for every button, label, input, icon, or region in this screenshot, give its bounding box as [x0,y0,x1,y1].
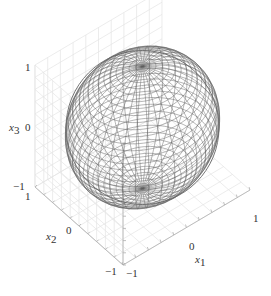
x1-axis-label: x1 [194,253,205,268]
x3-axis-label: x3 [8,121,20,136]
x2-tick-0: 0 [66,224,72,236]
x2-tick-1: 1 [25,190,31,202]
x1-tick-0: 0 [189,240,195,252]
x2-tick-neg1: −1 [105,265,117,277]
x3-tick-0: 0 [25,121,31,133]
x2-axis-label: x2 [45,230,56,245]
sphere-3d-plot: 1 0 −1 x3 1 0 −1 x2 −1 0 1 x1 [0,0,271,296]
x3-tick-1: 1 [25,61,31,73]
x3-tick-neg1: −1 [13,180,25,192]
x1-tick-neg1: −1 [126,267,138,279]
x1-tick-1: 1 [253,212,259,224]
